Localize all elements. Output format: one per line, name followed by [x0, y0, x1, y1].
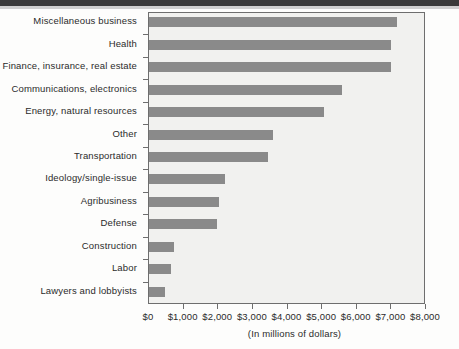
category-label: Construction — [82, 240, 137, 251]
x-axis-tick-label: $7,000 — [375, 311, 405, 322]
x-axis-tick-label: $3,000 — [237, 311, 267, 322]
bar — [149, 85, 342, 95]
y-axis-tick — [143, 169, 148, 170]
y-axis-tick — [143, 192, 148, 193]
x-axis-tick — [287, 304, 288, 309]
y-axis-tick — [143, 102, 148, 103]
bar — [149, 287, 165, 297]
category-label: Labor — [112, 262, 137, 273]
category-label: Lawyers and lobbyists — [40, 285, 137, 296]
y-axis-tick — [143, 237, 148, 238]
x-axis-tick — [217, 304, 218, 309]
category-label: Transportation — [74, 150, 137, 161]
bar — [149, 17, 397, 27]
x-axis-tick — [356, 304, 357, 309]
bar — [149, 242, 174, 252]
y-axis-tick — [143, 124, 148, 125]
x-axis-tick — [390, 304, 391, 309]
bar — [149, 62, 391, 72]
x-axis-tick-label: $2,000 — [202, 311, 232, 322]
y-axis-tick — [143, 259, 148, 260]
plot-area — [148, 12, 425, 304]
bar — [149, 107, 324, 117]
y-axis-tick — [143, 34, 148, 35]
category-label: Other — [112, 128, 137, 139]
bar — [149, 40, 391, 50]
bar — [149, 152, 268, 162]
x-axis-tick — [252, 304, 253, 309]
bar — [149, 130, 273, 140]
x-axis-tick-label: $0 — [143, 311, 154, 322]
x-axis-tick-label: $8,000 — [410, 311, 440, 322]
category-label: Energy, natural resources — [25, 105, 137, 116]
y-axis-tick — [143, 282, 148, 283]
category-label: Defense — [101, 217, 137, 228]
bar — [149, 219, 217, 229]
x-axis-tick-label: $5,000 — [306, 311, 336, 322]
category-label: Communications, electronics — [12, 83, 138, 94]
x-axis-tick — [183, 304, 184, 309]
y-axis-tick — [143, 79, 148, 80]
bar — [149, 174, 225, 184]
category-label: Finance, insurance, real estate — [2, 60, 137, 71]
category-label-column: Miscellaneous businessHealthFinance, ins… — [0, 0, 143, 349]
x-axis-title: (In millions of dollars) — [0, 328, 459, 339]
category-label: Ideology/single-issue — [45, 172, 137, 183]
x-axis-tick — [321, 304, 322, 309]
x-axis-title-text: (In millions of dollars) — [248, 328, 341, 339]
x-axis-tick — [425, 304, 426, 309]
y-axis-tick — [143, 214, 148, 215]
x-axis-tick-label: $4,000 — [272, 311, 302, 322]
y-axis-tick — [143, 57, 148, 58]
x-axis-tick-label: $6,000 — [341, 311, 371, 322]
x-axis-tick-label: $1,000 — [168, 311, 198, 322]
category-label: Agribusiness — [81, 195, 137, 206]
bar — [149, 264, 171, 274]
y-axis-tick — [143, 147, 148, 148]
bar-chart-figure: Miscellaneous businessHealthFinance, ins… — [0, 0, 459, 349]
bar — [149, 197, 219, 207]
category-label: Health — [109, 38, 137, 49]
category-label: Miscellaneous business — [33, 15, 137, 26]
